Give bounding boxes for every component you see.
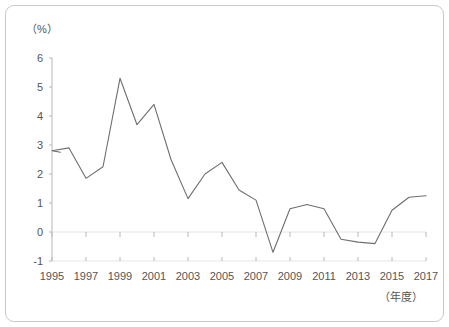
gridlines	[52, 232, 426, 261]
y-tick-label: 1	[25, 198, 43, 209]
y-tick-label: 3	[25, 140, 43, 151]
data-series-line	[52, 78, 426, 252]
x-tick-label: 2017	[406, 271, 446, 282]
y-tick-label: -1	[25, 256, 43, 267]
chart-figure: （%） （年度） 6543210-1 199519971999200120032…	[0, 0, 449, 327]
y-tick-label: 0	[25, 227, 43, 238]
x-axis-ticks	[52, 232, 426, 261]
y-tick-label: 4	[25, 111, 43, 122]
y-tick-label: 5	[25, 82, 43, 93]
y-tick-label: 2	[25, 169, 43, 180]
y-tick-label: 6	[25, 53, 43, 64]
